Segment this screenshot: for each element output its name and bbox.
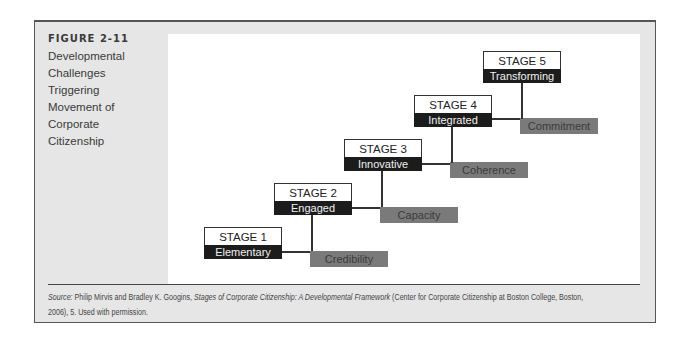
stage-label: STAGE 3 xyxy=(344,139,422,157)
figure-title: Developmental Challenges Triggering Move… xyxy=(48,48,158,150)
arrow-shaft xyxy=(381,166,383,207)
stage-name: Elementary xyxy=(204,245,282,259)
figure-number: FIGURE 2-11 xyxy=(48,33,158,44)
source-note: Source: Philip Mirvis and Bradley K. Goo… xyxy=(48,290,650,320)
connector-line xyxy=(282,251,310,253)
connector-line xyxy=(422,163,450,165)
stage-2-box: STAGE 2 Engaged xyxy=(274,183,352,215)
stage-label: STAGE 1 xyxy=(204,227,282,245)
stage-name: Engaged xyxy=(274,201,352,215)
stage-1-box: STAGE 1 Elementary xyxy=(204,227,282,259)
stage-3-box: STAGE 3 Innovative xyxy=(344,139,422,171)
challenge-capacity: Capacity xyxy=(380,207,458,223)
challenge-coherence: Coherence xyxy=(450,162,528,178)
connector-line xyxy=(352,207,380,209)
challenge-commitment: Commitment xyxy=(520,118,598,134)
connector-line xyxy=(492,118,520,120)
source-title: Stages of Corporate Citizenship: A Devel… xyxy=(194,292,390,302)
source-authors: Philip Mirvis and Bradley K. Googins, xyxy=(73,292,194,302)
divider xyxy=(48,284,640,285)
figure-caption: FIGURE 2-11 Developmental Challenges Tri… xyxy=(48,33,158,150)
stage-name: Transforming xyxy=(483,69,561,83)
challenge-credibility: Credibility xyxy=(310,251,388,267)
arrow-shaft xyxy=(521,78,523,119)
source-line2: 2006), 5. Used with permission. xyxy=(48,305,650,320)
stage-label: STAGE 4 xyxy=(414,95,492,113)
stage-5-box: STAGE 5 Transforming xyxy=(483,51,561,83)
stage-4-box: STAGE 4 Integrated xyxy=(414,95,492,127)
stage-label: STAGE 5 xyxy=(483,51,561,69)
arrow-shaft xyxy=(451,122,453,163)
arrow-shaft xyxy=(311,210,313,251)
stage-name: Integrated xyxy=(414,113,492,127)
source-rest: (Center for Corporate Citizenship at Bos… xyxy=(390,292,583,302)
stage-name: Innovative xyxy=(344,157,422,171)
source-prefix: Source: xyxy=(48,292,73,302)
stage-label: STAGE 2 xyxy=(274,183,352,201)
